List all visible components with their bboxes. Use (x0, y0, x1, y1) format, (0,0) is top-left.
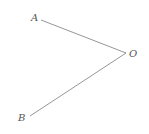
ray-ob (30, 53, 126, 116)
vertex-label-o: O (129, 48, 137, 59)
ray-oa (41, 20, 126, 53)
angle-diagram: A O B (0, 0, 149, 134)
point-label-b: B (17, 112, 25, 123)
point-label-a: A (30, 12, 38, 23)
